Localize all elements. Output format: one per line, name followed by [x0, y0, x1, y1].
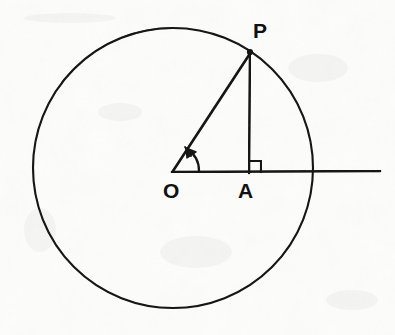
segment-PA: [249, 51, 250, 173]
figure-canvas: [0, 0, 395, 335]
paper-grain-overlay: [0, 0, 395, 335]
geometry-figure: P O A: [0, 0, 395, 335]
vertex-dot-P: [247, 49, 253, 55]
point-label-O: O: [163, 180, 180, 201]
horizontal-ray: [172, 171, 380, 172]
point-label-A: A: [238, 180, 254, 201]
point-label-P: P: [253, 20, 268, 41]
